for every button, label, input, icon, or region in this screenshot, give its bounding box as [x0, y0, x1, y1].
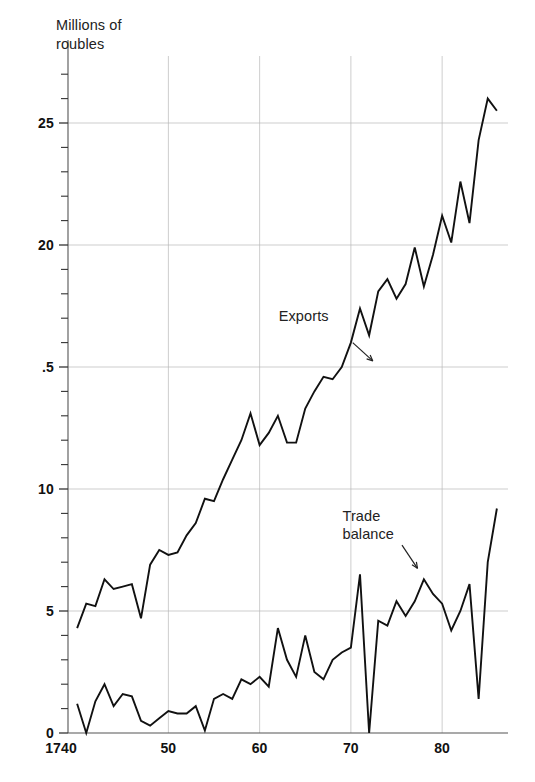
annotation-exports: Exports	[279, 308, 329, 326]
chart-plot-area	[0, 0, 535, 782]
trade-balance-arrow	[402, 545, 418, 568]
x-tick-label: 1740	[45, 740, 125, 756]
y-tick-label: 5	[0, 603, 54, 619]
y-tick-label: .5	[0, 359, 54, 375]
y-tick-label: 20	[0, 237, 54, 253]
x-tick-label: 70	[311, 740, 391, 756]
series-line-trade-balance	[77, 509, 497, 733]
annotation-trade-balance: Trade balance	[343, 508, 395, 544]
x-tick-label: 60	[220, 740, 300, 756]
x-tick-label: 80	[402, 740, 482, 756]
axis-ticks	[59, 74, 68, 733]
y-tick-label: 10	[0, 481, 54, 497]
y-tick-label: 0	[0, 725, 54, 741]
data-series	[77, 99, 497, 733]
y-tick-label: 25	[0, 115, 54, 131]
chart-figure: Millions of roubles 0510.52025 174050607…	[0, 0, 535, 782]
gridlines	[68, 56, 508, 733]
series-line-exports	[77, 99, 497, 628]
x-tick-label: 50	[128, 740, 208, 756]
exports-arrow	[353, 343, 373, 361]
y-axis-title: Millions of roubles	[56, 16, 122, 53]
